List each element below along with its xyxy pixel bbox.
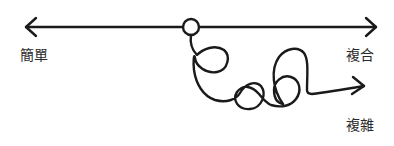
label-complicated: 複合 [346,47,374,63]
label-simple: 簡單 [20,47,48,63]
arrow-complex-icon [352,77,364,94]
complexity-diagram [0,0,394,146]
tangled-path [191,35,364,109]
label-complex: 複雜 [346,117,374,133]
origin-node-icon [183,19,199,35]
